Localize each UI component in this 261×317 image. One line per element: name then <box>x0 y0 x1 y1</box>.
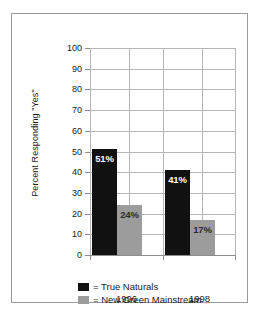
x-gridline <box>90 48 91 255</box>
legend-label-true-naturals: = True Naturals <box>93 281 158 292</box>
y-axis-tick-label: 60 <box>50 127 82 136</box>
y-axis-tick-label: 80 <box>50 85 82 94</box>
bar-value-label: 41% <box>165 174 190 185</box>
y-axis-tick-label: 40 <box>50 168 82 177</box>
legend-swatch-new-green-mainstream <box>78 296 89 304</box>
y-axis-tick-label: 90 <box>50 65 82 74</box>
x-gridline <box>235 48 236 255</box>
y-axis-title: Percent Responding "Yes" <box>30 63 40 223</box>
legend-item-true-naturals: = True Naturals <box>78 280 202 293</box>
x-axis-tick <box>163 255 164 260</box>
legend-swatch-true-naturals <box>78 283 89 291</box>
y-axis-tick-label: 10 <box>50 230 82 239</box>
plot-area: 01020304050607080901001996199851%41%24%1… <box>90 48 236 255</box>
y-axis-tick-label: 20 <box>50 210 82 219</box>
bar-new-green-mainstream-1996: 24% <box>117 205 142 255</box>
bar-true-naturals-1998: 41% <box>165 170 190 255</box>
bar-value-label: 51% <box>92 153 117 164</box>
chart-legend: = True Naturals = New Green Mainstream <box>78 280 202 306</box>
legend-label-new-green-mainstream: = New Green Mainstream <box>93 294 202 305</box>
bar-new-green-mainstream-1998: 17% <box>190 220 215 255</box>
x-axis-tick <box>90 255 91 260</box>
legend-item-new-green-mainstream: = New Green Mainstream <box>78 293 202 306</box>
y-axis-tick-label: 100 <box>50 44 82 53</box>
chart-frame: Percent Responding "Yes" 010203040506070… <box>11 13 248 303</box>
y-axis-tick-label: 30 <box>50 189 82 198</box>
y-axis-tick-label: 50 <box>50 148 82 157</box>
x-axis-tick <box>235 255 236 260</box>
y-axis-tick-label: 70 <box>50 106 82 115</box>
bar-true-naturals-1996: 51% <box>92 149 117 255</box>
chart-figure: Percent Responding "Yes" 010203040506070… <box>0 0 261 317</box>
y-axis-tick-label: 0 <box>50 251 82 260</box>
bar-value-label: 24% <box>117 209 142 220</box>
bar-value-label: 17% <box>190 224 215 235</box>
x-gridline <box>163 48 164 255</box>
